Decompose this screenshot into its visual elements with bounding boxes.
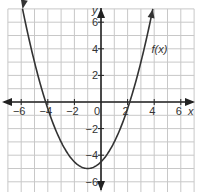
arrowhead-icon [148,9,155,19]
y-tick-label: 2 [92,69,98,81]
y-tick-label: 6 [92,16,98,28]
x-axis-label: x [187,105,194,117]
function-label: f(x) [152,43,168,55]
x-tick-label: −2 [66,105,79,117]
x-tick-label: −6 [13,105,26,117]
arrowhead-icon [21,0,28,9]
y-tick-label: −4 [85,149,98,161]
coordinate-plane: −6−4−20246642−2−4−6 f(x) x y [0,0,197,192]
x-tick-label: 6 [176,105,182,117]
x-tick-label: 0 [94,105,100,117]
parabola-graph: −6−4−20246642−2−4−6 f(x) x y [0,0,197,192]
y-axis-label: y [91,4,99,16]
y-tick-label: −6 [85,176,98,188]
y-tick-label: 4 [92,43,98,55]
x-tick-label: 4 [149,105,155,117]
y-tick-label: −2 [85,123,98,135]
